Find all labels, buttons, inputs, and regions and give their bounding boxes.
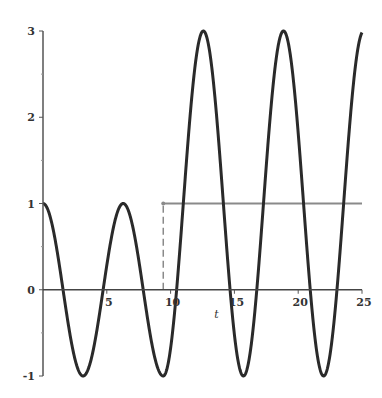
y-tick-label: -1 — [23, 370, 35, 383]
y-tick-label: 2 — [27, 111, 35, 124]
y-tick-label: 3 — [27, 25, 35, 38]
y-tick-label: 0 — [27, 284, 35, 297]
x-tick-label: 10 — [165, 296, 181, 309]
x-tick-label: 5 — [105, 296, 113, 309]
x-tick-label: 25 — [356, 296, 371, 309]
x-axis-label: t — [214, 308, 219, 321]
chart: -10123510152025t — [0, 0, 382, 398]
x-tick-label: 15 — [229, 296, 244, 309]
step-point — [161, 202, 165, 206]
y-tick-label: 1 — [27, 198, 35, 211]
x-tick-label: 20 — [293, 296, 309, 309]
plot-area — [43, 31, 362, 376]
